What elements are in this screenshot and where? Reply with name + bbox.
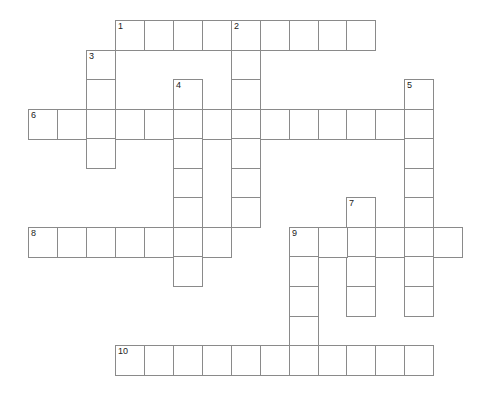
crossword-cell[interactable] <box>144 345 174 376</box>
clue-number: 5 <box>407 80 412 91</box>
crossword-cell[interactable] <box>318 20 348 51</box>
crossword-cell[interactable] <box>86 109 116 140</box>
crossword-cell[interactable] <box>86 79 116 110</box>
crossword-cell[interactable] <box>346 345 376 376</box>
clue-number: 6 <box>31 110 36 121</box>
clue-number: 2 <box>234 21 239 32</box>
clue-number: 3 <box>89 51 94 62</box>
crossword-cell[interactable] <box>289 109 319 140</box>
crossword-cell[interactable] <box>231 109 261 140</box>
crossword-cell[interactable] <box>404 345 434 376</box>
crossword-cell[interactable]: 4 <box>173 79 203 110</box>
crossword-cell[interactable] <box>231 168 261 199</box>
crossword-cell[interactable] <box>260 345 290 376</box>
crossword-cell[interactable] <box>318 227 348 258</box>
crossword-cell[interactable] <box>231 79 261 110</box>
crossword-cell[interactable] <box>173 138 203 169</box>
crossword-cell[interactable] <box>231 197 261 228</box>
crossword-cell[interactable] <box>289 286 319 317</box>
crossword-cell[interactable] <box>404 138 434 169</box>
clue-number: 7 <box>349 198 354 209</box>
crossword-cell[interactable]: 7 <box>346 197 376 228</box>
crossword-cell[interactable]: 6 <box>28 109 58 140</box>
clue-number: 9 <box>292 228 297 239</box>
clue-number: 10 <box>118 346 128 357</box>
crossword-cell[interactable] <box>404 168 434 199</box>
crossword-cell[interactable] <box>404 256 434 287</box>
crossword-cell[interactable]: 2 <box>231 20 261 51</box>
clue-number: 1 <box>118 21 123 32</box>
crossword-cell[interactable] <box>289 20 319 51</box>
crossword-cell[interactable] <box>173 109 203 140</box>
crossword-cell[interactable] <box>173 256 203 287</box>
crossword-cell[interactable] <box>375 109 405 140</box>
crossword-cell[interactable] <box>173 345 203 376</box>
crossword-cell[interactable] <box>433 227 463 258</box>
crossword-cell[interactable]: 3 <box>86 50 116 81</box>
crossword-cell[interactable]: 5 <box>404 79 434 110</box>
crossword-cell[interactable] <box>260 109 290 140</box>
crossword-cell[interactable] <box>202 227 232 258</box>
crossword-cell[interactable] <box>202 345 232 376</box>
clue-number: 4 <box>176 80 181 91</box>
crossword-cell[interactable] <box>346 20 376 51</box>
crossword-cell[interactable] <box>173 20 203 51</box>
crossword-cell[interactable] <box>231 138 261 169</box>
crossword-cell[interactable] <box>289 316 319 347</box>
crossword-cell[interactable] <box>404 109 434 140</box>
crossword-cell[interactable] <box>173 227 203 258</box>
crossword-cell[interactable] <box>144 109 174 140</box>
crossword-grid: 12345678910 <box>0 0 489 393</box>
crossword-cell[interactable]: 9 <box>289 227 319 258</box>
crossword-cell[interactable] <box>86 138 116 169</box>
crossword-cell[interactable] <box>231 50 261 81</box>
crossword-cell[interactable]: 1 <box>115 20 145 51</box>
crossword-cell[interactable] <box>202 109 232 140</box>
crossword-cell[interactable]: 10 <box>115 345 145 376</box>
crossword-cell[interactable] <box>115 109 145 140</box>
crossword-cell[interactable] <box>404 197 434 228</box>
crossword-cell[interactable] <box>318 345 348 376</box>
crossword-cell[interactable] <box>115 227 145 258</box>
crossword-cell[interactable] <box>289 256 319 287</box>
crossword-cell[interactable] <box>144 20 174 51</box>
crossword-cell[interactable] <box>231 345 261 376</box>
crossword-cell[interactable] <box>173 197 203 228</box>
crossword-cell[interactable] <box>346 109 376 140</box>
crossword-cell[interactable] <box>318 109 348 140</box>
crossword-cell[interactable]: 8 <box>28 227 58 258</box>
crossword-cell[interactable] <box>86 227 116 258</box>
crossword-cell[interactable] <box>346 227 376 258</box>
crossword-cell[interactable] <box>346 286 376 317</box>
crossword-cell[interactable] <box>375 227 405 258</box>
crossword-cell[interactable] <box>57 109 87 140</box>
clue-number: 8 <box>31 228 36 239</box>
crossword-cell[interactable] <box>289 345 319 376</box>
crossword-cell[interactable] <box>202 20 232 51</box>
crossword-cell[interactable] <box>404 227 434 258</box>
crossword-cell[interactable] <box>375 345 405 376</box>
crossword-cell[interactable] <box>173 168 203 199</box>
crossword-cell[interactable] <box>404 286 434 317</box>
crossword-cell[interactable] <box>57 227 87 258</box>
crossword-cell[interactable] <box>260 20 290 51</box>
crossword-cell[interactable] <box>346 256 376 287</box>
crossword-cell[interactable] <box>144 227 174 258</box>
